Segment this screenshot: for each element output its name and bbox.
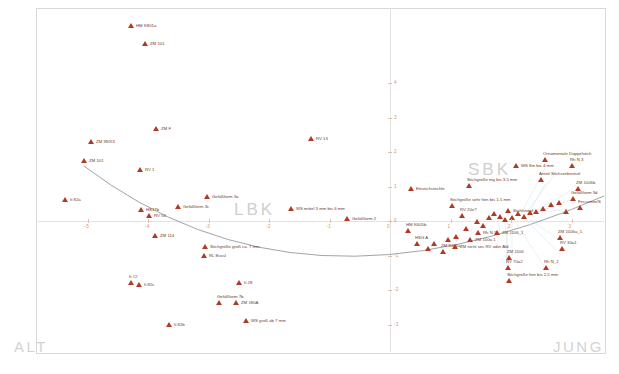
- triangle-marker-icon: [138, 207, 144, 212]
- x-tick-label: -3: [206, 224, 211, 229]
- triangle-marker-icon: [414, 241, 420, 246]
- data-point-label: ZM nicht sec RV oder Ald: [460, 244, 508, 249]
- data-point-label: Rh N_2: [544, 259, 559, 264]
- triangle-marker-icon: [463, 226, 469, 231]
- data-point-label: It 28: [244, 280, 252, 285]
- x-tick-label: -1: [327, 224, 332, 229]
- y-tick-mark: [388, 187, 392, 188]
- x-tick-mark: [148, 219, 149, 223]
- triangle-marker-icon: [505, 208, 511, 213]
- triangle-marker-icon: [408, 186, 414, 191]
- triangle-marker-icon: [128, 280, 134, 285]
- triangle-marker-icon: [533, 209, 539, 214]
- x-tick-label: 3: [569, 224, 572, 229]
- data-point-label: HM K801a: [136, 23, 156, 28]
- triangle-marker-icon: [445, 237, 451, 242]
- data-point-label: Rh N 3: [570, 157, 583, 162]
- y-tick-mark: [388, 118, 392, 119]
- y-tick-mark: [388, 325, 392, 326]
- triangle-marker-icon: [142, 41, 148, 46]
- data-point-label: ZM 101: [89, 158, 104, 163]
- y-tick-mark: [388, 290, 392, 291]
- y-tick-label: -1: [394, 253, 399, 258]
- triangle-marker-icon: [288, 206, 294, 211]
- triangle-marker-icon: [453, 234, 459, 239]
- y-tick-label: 2: [394, 149, 397, 154]
- triangle-marker-icon: [236, 280, 242, 285]
- triangle-marker-icon: [202, 244, 208, 249]
- data-point-label: It #2: [129, 274, 137, 279]
- triangle-marker-icon: [62, 197, 68, 202]
- triangle-marker-icon: [505, 265, 511, 270]
- triangle-marker-icon: [137, 167, 143, 172]
- triangle-marker-icon: [540, 206, 546, 211]
- data-point-label: ZM F: [161, 126, 171, 131]
- data-point-label: ZM 100a 1: [475, 237, 496, 242]
- triangle-marker-icon: [506, 278, 512, 283]
- y-tick-mark: [388, 152, 392, 153]
- y-tick-label: 1: [394, 184, 397, 189]
- x-tick-label: 2: [508, 224, 511, 229]
- data-point-label: RL Bussl: [209, 253, 226, 258]
- triangle-marker-icon: [569, 163, 575, 168]
- y-tick-label: -3: [394, 322, 399, 327]
- triangle-marker-icon: [502, 217, 508, 222]
- y-tick-mark: [388, 83, 392, 84]
- triangle-marker-icon: [405, 228, 411, 233]
- data-point-label: Stichgröße sehr fein bis 1,5 mm: [450, 197, 511, 202]
- data-point-label: ZM 114: [160, 233, 174, 238]
- triangle-marker-icon: [480, 223, 486, 228]
- data-point-label: Gefäßform 3c: [183, 204, 209, 209]
- triangle-marker-icon: [452, 244, 458, 249]
- data-point-label: Gefäßform 2: [352, 216, 376, 221]
- region-sbk: SBK: [468, 160, 511, 180]
- data-point-label: Feccomm/S: [578, 199, 601, 204]
- data-point-label: RV 56: [154, 213, 166, 218]
- data-point-label: ZM 1106: [507, 249, 524, 254]
- y-tick-label: 0: [394, 218, 397, 223]
- data-point-label: Einstichstechle: [416, 186, 445, 191]
- data-point-label: ZM 180A: [241, 300, 258, 305]
- triangle-marker-icon: [475, 230, 481, 235]
- data-point-label: Gefäßform 3a: [212, 194, 239, 199]
- triangle-marker-icon: [216, 300, 222, 305]
- data-point-label: RV 13: [316, 136, 328, 141]
- triangle-marker-icon: [88, 139, 94, 144]
- triangle-marker-icon: [243, 318, 249, 323]
- triangle-marker-icon: [308, 136, 314, 141]
- y-tick-mark: [388, 221, 392, 222]
- data-point-label: HSG A: [415, 235, 428, 240]
- x-tick-label: -2: [266, 224, 271, 229]
- triangle-marker-icon: [577, 205, 583, 210]
- triangle-marker-icon: [467, 237, 473, 242]
- data-point-label: WS mittel 3 mm bis 6 mm: [296, 206, 345, 211]
- x-tick-mark: [209, 219, 210, 223]
- data-point-label: WS groß ab 7 mm: [251, 318, 286, 323]
- region-jung: JUNG: [553, 338, 604, 355]
- triangle-marker-icon: [344, 216, 350, 221]
- x-tick-mark: [330, 219, 331, 223]
- x-tick-mark: [511, 219, 512, 223]
- triangle-marker-icon: [233, 300, 239, 305]
- data-point-label: Gefäßform 7b: [217, 294, 244, 299]
- y-tick-label: 4: [394, 80, 397, 85]
- triangle-marker-icon: [466, 183, 472, 188]
- triangle-marker-icon: [548, 202, 554, 207]
- x-tick-mark: [572, 219, 573, 223]
- triangle-marker-icon: [513, 163, 519, 168]
- triangle-marker-icon: [563, 209, 569, 214]
- x-tick-mark: [269, 219, 270, 223]
- triangle-marker-icon: [175, 204, 181, 209]
- triangle-marker-icon: [146, 213, 152, 218]
- data-point-label: It 82b: [174, 322, 185, 327]
- triangle-marker-icon: [431, 241, 437, 246]
- data-point-label: Anteil Stichverbreitsel: [539, 171, 580, 176]
- data-point-label: RV 70a2: [506, 259, 523, 264]
- data-point-label: Ornamentale Doppelstich: [543, 151, 592, 156]
- triangle-marker-icon: [459, 213, 465, 218]
- x-tick-label: -5: [85, 224, 90, 229]
- triangle-marker-icon: [449, 203, 455, 208]
- triangle-marker-icon: [153, 126, 159, 131]
- triangle-marker-icon: [494, 230, 500, 235]
- x-tick-label: 0: [387, 224, 390, 229]
